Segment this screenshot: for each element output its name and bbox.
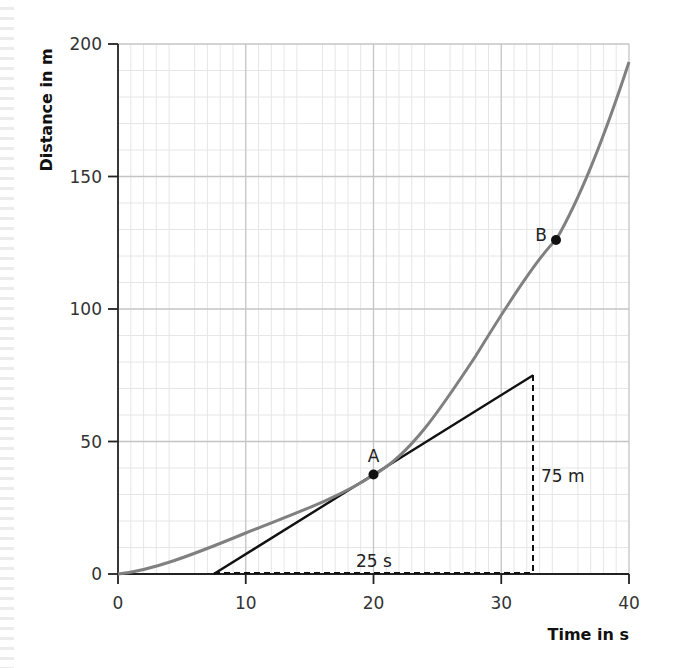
point-a-label: A [368,446,380,466]
y-tick-label-100: 100 [70,299,102,319]
axes [108,44,629,584]
point-b-marker [551,235,561,245]
x-tick-label-0: 0 [113,593,124,613]
y-tick-label-200: 200 [70,34,102,54]
y-tick-label-150: 150 [70,167,102,187]
x-axis-title: Time in s [548,625,629,644]
y-tick-label-0: 0 [91,564,102,584]
run-label: 25 s [356,551,392,571]
y-axis-title: Distance in m [37,48,56,171]
distance-time-chart: 200 150 100 50 0 0 10 20 30 40 Time in s… [0,0,674,668]
x-tick-label-20: 20 [363,593,385,613]
rise-label: 75 m [541,466,585,486]
x-tick-label-40: 40 [618,593,640,613]
y-tick-label-50: 50 [80,432,102,452]
point-a-marker [369,470,379,480]
x-tick-label-30: 30 [490,593,512,613]
point-b-label: B [535,225,547,245]
x-tick-label-10: 10 [235,593,257,613]
